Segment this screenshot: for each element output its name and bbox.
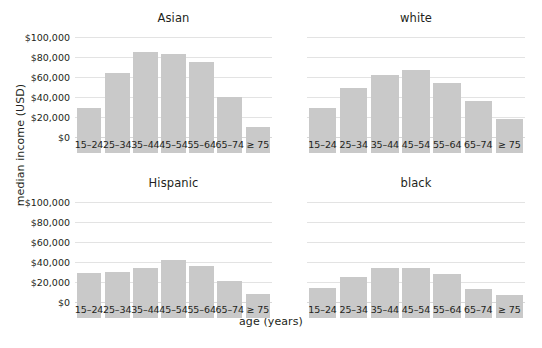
y-tick-label: $40,000 <box>31 257 70 268</box>
chart-figure: median income (USD) age (years) Asian$0$… <box>0 0 542 348</box>
x-tick-label: 45–54 <box>159 304 187 315</box>
y-tick-label: $80,000 <box>31 52 70 63</box>
x-tick-label: 65–74 <box>464 304 492 315</box>
y-tick-label: $100,000 <box>25 32 70 43</box>
x-tick-label: 35–44 <box>371 304 399 315</box>
x-tick-label: 25–34 <box>339 304 367 315</box>
panel-asian: Asian$0$20,000$40,000$60,000$80,000$100,… <box>75 27 272 153</box>
x-tick-label: 65–74 <box>216 304 244 315</box>
y-tick-label: $20,000 <box>31 277 70 288</box>
gridline <box>307 37 525 38</box>
x-tick-label: ≥ 75 <box>247 139 270 150</box>
x-axis-ticks: 15–2425–3435–4445–5455–6465–74≥ 75 <box>307 139 525 153</box>
x-tick-label: 35–44 <box>131 304 159 315</box>
x-tick-label: 35–44 <box>371 139 399 150</box>
x-tick-label: 55–64 <box>433 139 461 150</box>
bar-series <box>75 43 272 153</box>
panel-title: Hispanic <box>75 176 272 190</box>
x-axis-ticks: 15–2425–3435–4445–5455–6465–74≥ 75 <box>75 304 272 318</box>
panel-hispanic: Hispanic$0$20,000$40,000$60,000$80,000$1… <box>75 192 272 318</box>
bar <box>133 52 158 153</box>
x-tick-label: 25–34 <box>339 139 367 150</box>
x-tick-label: ≥ 75 <box>498 139 521 150</box>
y-axis-title: median income (USD) <box>14 25 28 265</box>
x-tick-label: 15–24 <box>308 139 336 150</box>
bar-series <box>307 43 525 153</box>
x-tick-label: 25–34 <box>103 304 131 315</box>
panel-black: black15–2425–3435–4445–5455–6465–74≥ 75 <box>307 192 525 318</box>
y-tick-label: $100,000 <box>25 197 70 208</box>
x-tick-label: 55–64 <box>187 139 215 150</box>
x-tick-label: 15–24 <box>75 304 103 315</box>
y-tick-label: $60,000 <box>31 72 70 83</box>
x-tick-label: 25–34 <box>103 139 131 150</box>
y-tick-label: $20,000 <box>31 112 70 123</box>
x-tick-label: 55–64 <box>433 304 461 315</box>
x-tick-label: 15–24 <box>75 139 103 150</box>
x-tick-label: 45–54 <box>402 304 430 315</box>
y-tick-label: $80,000 <box>31 217 70 228</box>
y-tick-label: $0 <box>58 297 70 308</box>
x-axis-ticks: 15–2425–3435–4445–5455–6465–74≥ 75 <box>75 139 272 153</box>
y-tick-label: $40,000 <box>31 92 70 103</box>
gridline <box>307 202 525 203</box>
x-tick-label: 65–74 <box>216 139 244 150</box>
panel-title: white <box>307 11 525 25</box>
bar-series <box>75 208 272 318</box>
x-tick-label: 45–54 <box>159 139 187 150</box>
x-tick-label: 55–64 <box>187 304 215 315</box>
panel-title: Asian <box>75 11 272 25</box>
x-tick-label: ≥ 75 <box>247 304 270 315</box>
y-tick-label: $0 <box>58 132 70 143</box>
x-tick-label: ≥ 75 <box>498 304 521 315</box>
panel-white: white15–2425–3435–4445–5455–6465–74≥ 75 <box>307 27 525 153</box>
panel-title: black <box>307 176 525 190</box>
x-tick-label: 65–74 <box>464 139 492 150</box>
bar-series <box>307 208 525 318</box>
y-tick-label: $60,000 <box>31 237 70 248</box>
x-tick-label: 15–24 <box>308 304 336 315</box>
x-tick-label: 45–54 <box>402 139 430 150</box>
x-tick-label: 35–44 <box>131 139 159 150</box>
x-axis-ticks: 15–2425–3435–4445–5455–6465–74≥ 75 <box>307 304 525 318</box>
